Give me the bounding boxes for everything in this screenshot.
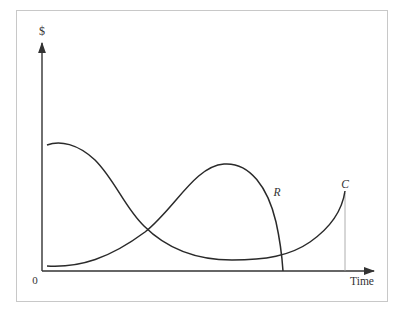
curve-r-label: R	[272, 186, 280, 198]
chart-canvas: $ 0 Time R C	[0, 0, 400, 314]
curve-r	[47, 164, 283, 271]
curve-c-label: C	[341, 178, 349, 190]
x-axis-label: Time	[350, 275, 374, 287]
origin-label: 0	[32, 274, 38, 286]
curve-c	[47, 143, 345, 260]
y-axis-label: $	[39, 24, 45, 38]
